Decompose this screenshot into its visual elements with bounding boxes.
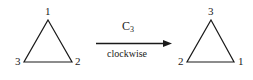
rotated-triangle-shape [187,20,234,62]
rotated-triangle-vertex-bottom-left-label: 2 [178,56,184,67]
starting-triangle-vertex-top-label: 1 [45,6,51,17]
rotated-triangle-vertex-top-label: 3 [208,6,214,17]
rotation-symbol-letter: C [122,19,130,33]
rotation-operation-symbol: C3 [122,20,134,36]
figure-graphics [0,0,253,80]
starting-triangle-shape [24,20,72,62]
rotation-operation-figure: 1 3 2 C3 clockwise 3 2 1 [0,0,253,80]
starting-triangle-vertex-bottom-left-label: 3 [15,56,21,67]
transformation-arrowhead [163,40,172,47]
rotation-direction-label: clockwise [107,49,147,59]
rotation-symbol-subscript: 3 [130,25,134,34]
starting-triangle-vertex-bottom-right-label: 2 [75,56,81,67]
rotated-triangle-vertex-bottom-right-label: 1 [238,56,244,67]
